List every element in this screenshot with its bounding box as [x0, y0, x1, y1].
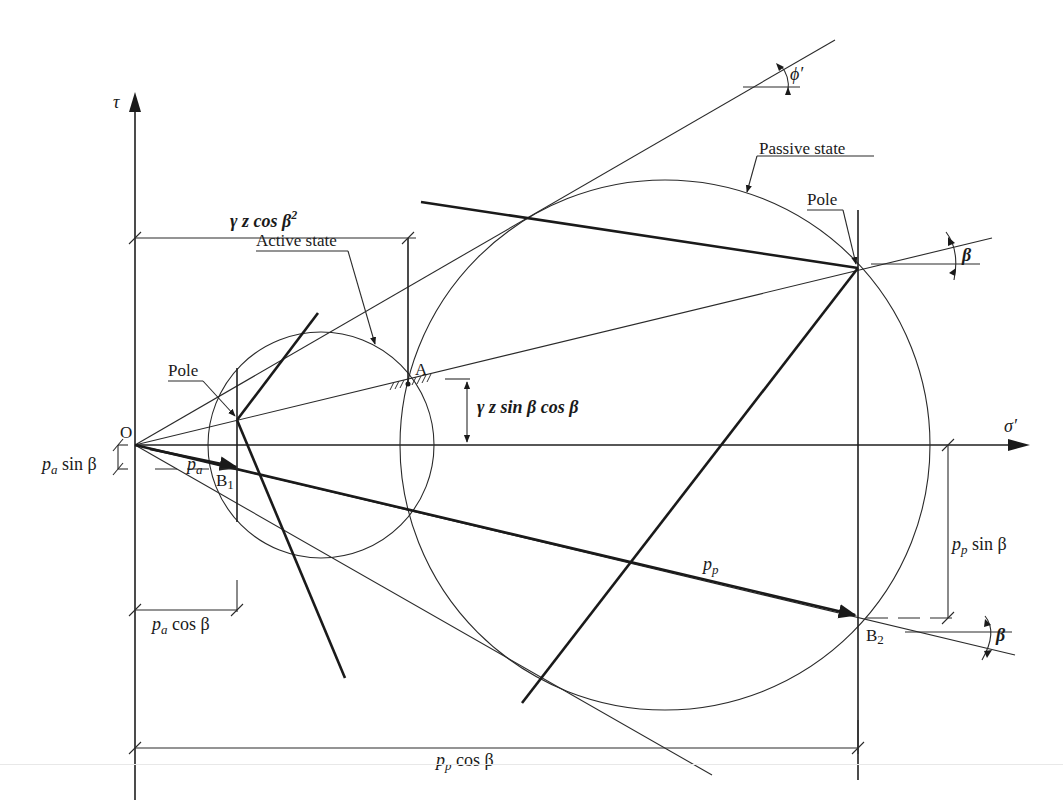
page-edge [0, 764, 1063, 765]
dim-pa-cos-label: pa cos β [150, 614, 210, 637]
point-a: A [390, 238, 431, 390]
dim-gz-cos2-label: γ z cos β2 [230, 208, 297, 231]
sigma-arrow-icon [1008, 439, 1030, 451]
passive-state-label: Passive state [759, 139, 845, 158]
dim-pp-cos-label: pp cos β [434, 750, 494, 773]
pp-vector [135, 445, 855, 615]
origin-label: O [120, 423, 132, 442]
dim-gz-sin-cos-label: γ z sin β cos β [477, 397, 579, 417]
point-b2-label: B2 [866, 626, 884, 647]
tau-label: τ [113, 92, 120, 112]
beta-label-lower: β [995, 625, 1006, 645]
active-state-label: Active state [256, 231, 337, 250]
passive-state-callout: Passive state [747, 139, 874, 192]
dim-pa-cos: pa cos β [129, 580, 243, 637]
active-state-callout: Active state [256, 231, 375, 344]
pp-label: pp [701, 554, 719, 577]
pa-label: pa [185, 454, 203, 477]
sigma-label: σ′ [1004, 416, 1018, 436]
passive-slip-line-2 [522, 268, 858, 703]
active-slip-line-2 [237, 420, 345, 678]
beta-label-upper: β [961, 245, 972, 265]
passive-pole-label: Pole [807, 190, 837, 209]
point-b1-label: B1 [216, 471, 234, 492]
dim-pp-cos: pp cos β [129, 720, 864, 773]
active-pole-callout: Pole [168, 361, 235, 416]
dim-pp-sin-label: pp sin β [950, 534, 1007, 557]
sigma-axis: σ′ [135, 416, 1030, 451]
beta-angle-lower: β [905, 616, 1012, 660]
dim-gz-sin-cos: γ z sin β cos β [445, 379, 579, 442]
tau-arrow-icon [129, 92, 141, 112]
dim-pa-sin-label: pa sin β [40, 454, 97, 477]
mohr-circle-diagram: τ σ′ O A B1 B2 Pole [0, 0, 1063, 808]
passive-pole-callout: Pole [807, 190, 856, 264]
passive-slip-line-1 [421, 202, 858, 268]
upper-failure-envelope [135, 40, 835, 445]
active-pole-label: Pole [168, 361, 198, 380]
point-a-label: A [415, 360, 428, 379]
dim-pp-sin: pp sin β [866, 439, 1007, 624]
phi-angle-marker: ϕ′ [743, 63, 804, 95]
beta-angle-upper: β [871, 232, 980, 280]
phi-label: ϕ′ [790, 64, 804, 84]
